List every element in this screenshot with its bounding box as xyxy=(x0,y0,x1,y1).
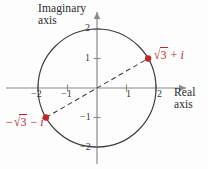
radical-expression-upper: √3 xyxy=(153,49,168,62)
real-axis-label: Real axis xyxy=(174,86,195,110)
point-neg-sqrt3-minus-i xyxy=(43,114,49,120)
tick-label-real-neg1: −1 xyxy=(61,89,72,100)
tick-label-imag-pos2: 2 xyxy=(85,23,90,34)
imaginary-axis-label-line1: Imaginary xyxy=(38,2,86,14)
real-axis-label-line2: axis xyxy=(174,98,195,110)
tick-label-imag-neg2: −2 xyxy=(80,142,91,153)
tick-label-real-pos2: 2 xyxy=(157,89,162,100)
tick-label-real-neg2: −2 xyxy=(31,89,42,100)
imaginary-axis-label-line2: axis xyxy=(38,14,86,26)
leading-sign-lower: − xyxy=(6,115,13,129)
tick-label-imag-pos1: 1 xyxy=(85,53,90,64)
imaginary-unit-upper: i xyxy=(180,48,183,62)
point-label-sqrt3-plus-i: √3 + i xyxy=(153,49,184,62)
radicand-upper: 3 xyxy=(160,47,168,62)
radical-sign-icon: √ xyxy=(14,114,20,128)
tick-label-imag-neg1: −1 xyxy=(80,112,91,123)
real-axis-label-line1: Real xyxy=(174,86,195,98)
diagram-canvas xyxy=(0,0,208,169)
point-label-neg-sqrt3-minus-i: −√3 − i xyxy=(6,116,44,129)
imaginary-unit-lower: i xyxy=(40,115,43,129)
radical-expression-lower: √3 xyxy=(13,116,28,129)
imaginary-axis-label: Imaginary axis xyxy=(38,2,86,26)
point-sqrt3-plus-i xyxy=(145,55,151,61)
imaginary-axis-arrowhead xyxy=(94,12,100,19)
complex-plane-figure: Imaginary axis Real axis −2 −1 1 2 2 1 −… xyxy=(0,0,208,169)
tick-label-real-pos1: 1 xyxy=(126,89,131,100)
radical-sign-icon: √ xyxy=(154,47,160,61)
